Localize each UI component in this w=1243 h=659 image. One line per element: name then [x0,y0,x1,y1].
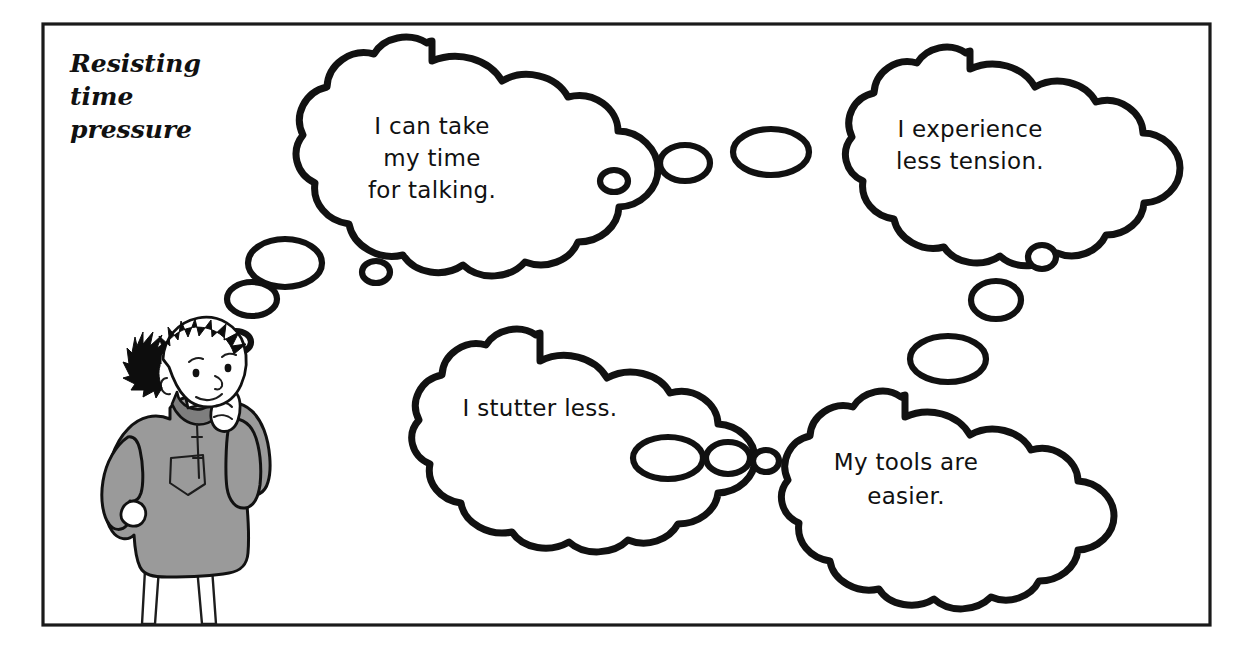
bubble-text-line-3: for talking. [368,177,496,203]
trail-ellipse-large [248,239,322,287]
character-eye-right [225,364,232,372]
trail-ellipse-small [600,170,628,192]
trail-ellipse-large [910,336,986,382]
bubble-text-line-1: I stutter less. [463,395,618,421]
trail-ellipse-medium [660,145,710,181]
trail-ellipse-large [633,437,703,479]
bubble-text-line-1: I experience [897,116,1042,142]
character-eye-left [193,369,200,377]
trail-ellipse-large [733,129,809,175]
panel-title-line-3: pressure [70,115,192,144]
trail-ellipse-small [1028,245,1056,269]
bubble-text-line-1: I can take [374,113,489,139]
trail-ellipse-accent [362,261,390,283]
panel-title-line-2: time [70,82,133,111]
trail-ellipse-medium [971,281,1021,319]
illustration-panel: Resisting time pressure I can take my ti… [0,0,1243,659]
bubble-text-line-1: My tools are [834,449,978,475]
bubble-text-line-2: my time [383,145,480,171]
character-hand-on-hip [121,501,146,526]
illustration-canvas: Resisting time pressure I can take my ti… [0,0,1243,659]
trail-ellipse-medium [706,442,750,474]
bubble-text-line-2: easier. [867,483,945,509]
bubble-text-line-2: less tension. [896,148,1044,174]
trail-ellipse-small [753,450,779,472]
panel-title-line-1: Resisting [69,49,201,78]
